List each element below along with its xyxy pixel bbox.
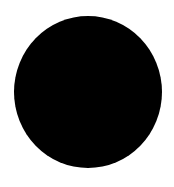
canvas xyxy=(0,0,174,187)
black-circle xyxy=(14,16,162,168)
